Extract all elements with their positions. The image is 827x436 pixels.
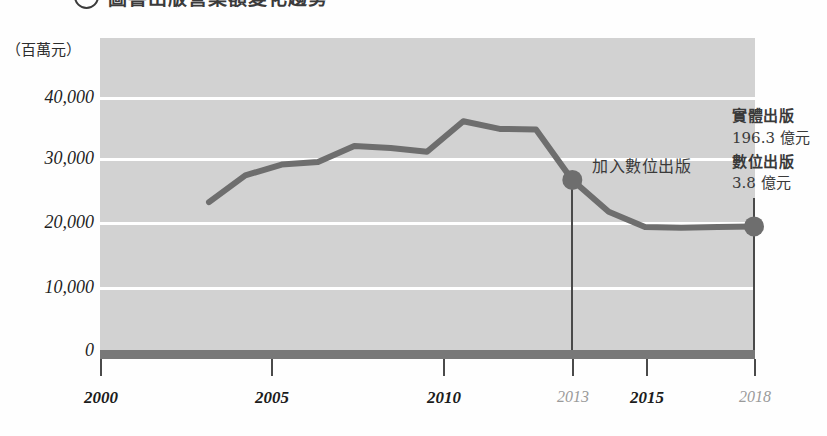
- x-tick-2010: [443, 359, 445, 376]
- gridline-40000: [100, 97, 755, 100]
- legend-block: 實體出版 196.3 億元 數位出版 3.8 億元: [732, 106, 827, 197]
- legend-physical-label: 實體出版: [732, 106, 827, 128]
- vline-2013: [571, 178, 573, 352]
- y-axis: 40,000 30,000 20,000 10,000 0: [0, 0, 94, 436]
- x-tick-label-2015: 2015: [630, 388, 664, 408]
- legend-digital-label: 數位出版: [732, 152, 827, 174]
- legend-digital-value: 3.8 億元: [732, 173, 827, 195]
- x-tick-2000: [100, 359, 102, 376]
- legend-physical-value: 196.3 億元: [732, 128, 827, 150]
- y-tick-label-30000: 30,000: [6, 148, 94, 169]
- x-tick-2018: [754, 359, 756, 376]
- page-title-strip: 圖書出版營業額變化趨勢: [0, 0, 827, 13]
- x-tick-label-2010: 2010: [427, 388, 461, 408]
- y-tick-label-40000: 40,000: [6, 87, 94, 108]
- x-tick-label-2005: 2005: [255, 388, 289, 408]
- plot-area: [100, 38, 755, 352]
- annotation-join-digital: 加入數位出版: [592, 153, 691, 177]
- y-tick-label-20000: 20,000: [6, 212, 94, 233]
- y-tick-label-10000: 10,000: [6, 277, 94, 298]
- x-tick-2015: [646, 359, 648, 376]
- y-tick-label-0: 0: [6, 340, 94, 361]
- x-tick-label-2018: 2018: [739, 388, 771, 406]
- x-tick-2005: [271, 359, 273, 376]
- x-tick-2013: [572, 359, 574, 376]
- x-tick-label-2000: 2000: [84, 388, 118, 408]
- gridline-10000: [100, 287, 755, 290]
- chart-page: 圖書出版營業額變化趨勢 （百萬元） 40,000 30,000 20,000 1…: [0, 0, 827, 436]
- x-tick-label-2013: 2013: [557, 388, 589, 406]
- zero-baseline-bar: [100, 350, 755, 359]
- vline-2018: [753, 198, 755, 352]
- gridline-20000: [100, 222, 755, 225]
- page-title: 圖書出版營業額變化趨勢: [108, 0, 328, 10]
